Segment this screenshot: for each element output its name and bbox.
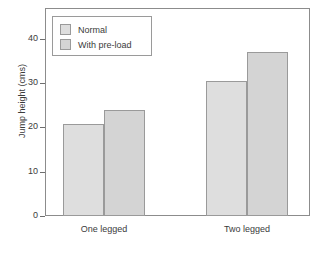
y-tick — [40, 216, 45, 217]
chart-figure: Jump height (cms) 010203040 One leggedTw… — [0, 0, 321, 263]
x-axis-label: One legged — [54, 224, 154, 234]
legend-swatch-with-pre-load — [60, 39, 71, 50]
y-tick-label: 30 — [28, 78, 38, 87]
y-tick-label: 10 — [28, 167, 38, 176]
legend-item[interactable]: With pre-load — [60, 37, 151, 52]
legend-swatch-normal — [60, 24, 71, 35]
y-tick — [40, 127, 45, 128]
legend-label-with-pre-load: With pre-load — [78, 40, 132, 50]
bar — [247, 52, 288, 216]
legend-item[interactable]: Normal — [60, 22, 151, 37]
bar — [104, 110, 145, 216]
y-tick — [40, 172, 45, 173]
bar — [206, 81, 247, 216]
y-axis-title: Jump height (cms) — [17, 46, 27, 156]
y-tick-label: 40 — [28, 34, 38, 43]
y-tick — [40, 39, 45, 40]
y-tick — [40, 83, 45, 84]
y-tick-label: 20 — [28, 122, 38, 131]
chart-legend: Normal With pre-load — [52, 16, 152, 56]
x-axis-label: Two legged — [197, 224, 297, 234]
legend-label-normal: Normal — [78, 25, 107, 35]
bar — [63, 124, 104, 216]
y-tick-label: 0 — [33, 211, 38, 220]
